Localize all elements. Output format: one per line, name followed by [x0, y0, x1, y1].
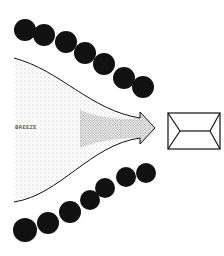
tree-icon	[37, 212, 59, 234]
tree-icon	[132, 76, 154, 98]
tree-icon	[113, 67, 135, 89]
tree-icon	[13, 218, 37, 242]
tree-icon	[136, 163, 156, 183]
tree-icon	[59, 201, 81, 223]
tree-icon	[33, 24, 55, 46]
breeze-label: BREEZE	[15, 124, 37, 130]
tree-icon	[95, 178, 115, 198]
tree-icon	[14, 19, 36, 41]
tree-icon	[74, 42, 96, 64]
tree-icon	[55, 31, 77, 53]
building-icon	[168, 113, 220, 149]
tree-icon	[116, 167, 136, 187]
tree-icon	[93, 53, 115, 75]
